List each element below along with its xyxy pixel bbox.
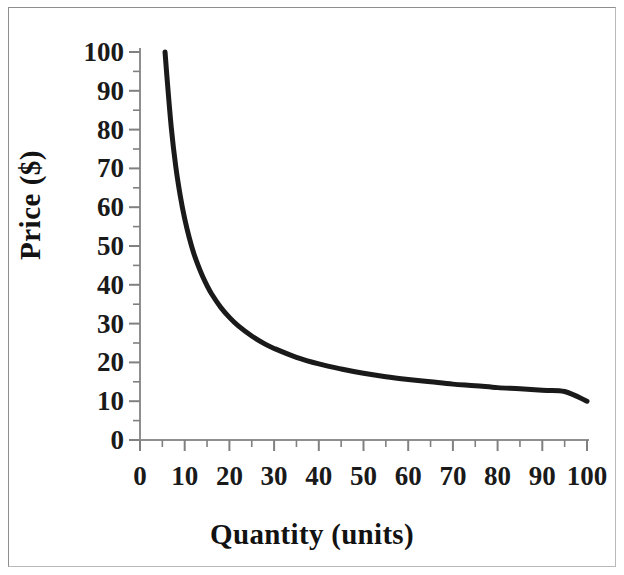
y-axis-tick-label: 40 — [52, 271, 124, 298]
x-axis-tick-label: 30 — [261, 463, 288, 490]
y-axis-tick-label: 100 — [52, 39, 124, 66]
x-axis-tick-label: 70 — [439, 463, 466, 490]
x-axis-tick-label: 0 — [133, 463, 147, 490]
y-axis-title: Price ($) — [14, 150, 47, 260]
y-axis-tick-label: 0 — [52, 427, 124, 454]
y-axis-tick-label: 80 — [52, 116, 124, 143]
demand-curve-line — [165, 52, 587, 401]
x-axis-tick-label: 20 — [216, 463, 243, 490]
x-axis-tick-label: 60 — [395, 463, 422, 490]
demand-curve-figure: 0102030405060708090100 01020304050607080… — [0, 0, 624, 575]
x-axis-tick-label: 100 — [567, 463, 608, 490]
y-axis-tick-label: 50 — [52, 233, 124, 260]
y-axis-tick-label: 30 — [52, 310, 124, 337]
y-axis-tick-label: 60 — [52, 194, 124, 221]
x-axis-tick-label: 90 — [529, 463, 556, 490]
y-axis-tick-label: 90 — [52, 77, 124, 104]
x-axis-tick-label: 40 — [305, 463, 332, 490]
y-axis-tick-label: 10 — [52, 388, 124, 415]
y-axis-tick-label: 20 — [52, 349, 124, 376]
x-axis-ticks — [140, 440, 587, 451]
x-axis-tick-label: 10 — [171, 463, 198, 490]
y-axis-ticks — [129, 52, 140, 440]
x-axis-title: Quantity (units) — [0, 518, 624, 551]
x-axis-tick-label: 80 — [484, 463, 511, 490]
x-axis-tick-label: 50 — [350, 463, 377, 490]
y-axis-tick-label: 70 — [52, 155, 124, 182]
